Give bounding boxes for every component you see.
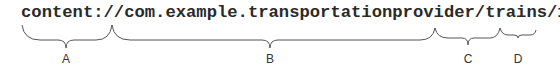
label-b: B [266,52,274,66]
brace-c-icon [435,28,500,45]
brace-a-icon [22,25,112,48]
label-c: C [464,52,473,66]
label-d: D [514,52,523,66]
label-a: A [62,52,70,66]
brace-b-icon [112,25,435,48]
brace-overlay [0,0,560,75]
brace-d-icon [500,28,536,38]
